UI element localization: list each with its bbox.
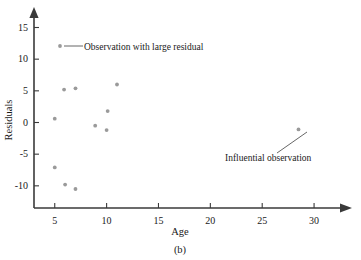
x-axis-tick-label: 10 xyxy=(102,216,112,226)
x-axis-tick-label: 25 xyxy=(257,216,267,226)
data-point xyxy=(62,88,66,92)
y-axis-tick-label: 5 xyxy=(10,86,28,96)
x-axis-tick-label: 5 xyxy=(52,216,57,226)
y-axis-arrowhead xyxy=(29,7,38,18)
y-axis-tick-label: 15 xyxy=(10,23,28,33)
x-axis-tick-label: 20 xyxy=(205,216,215,226)
data-point-group xyxy=(53,83,301,191)
x-axis-tick-label: 30 xyxy=(309,216,319,226)
annotation-large-residual-label: Observation with large residual xyxy=(84,43,203,53)
data-point xyxy=(63,183,67,187)
y-axis-tick-label: 10 xyxy=(10,54,28,64)
data-point xyxy=(106,109,110,113)
x-axis-arrowhead xyxy=(340,203,352,212)
axes xyxy=(29,7,352,213)
y-axis-tick-label: 0 xyxy=(10,118,28,128)
data-point xyxy=(105,128,109,132)
scatter-plot-figure: Observation with large residual Influent… xyxy=(0,0,361,260)
legend-sample-marker xyxy=(58,44,62,48)
x-axis-label: Age xyxy=(171,227,189,238)
data-point xyxy=(115,83,119,87)
annotation-leader-lines xyxy=(64,46,307,153)
data-point xyxy=(297,128,301,132)
data-point xyxy=(53,166,57,170)
y-axis-tick-label: -10 xyxy=(10,181,28,191)
data-point xyxy=(74,86,78,90)
figure-caption: (b) xyxy=(174,245,186,256)
legend-marker-group xyxy=(58,44,62,48)
y-axis-tick-label: -5 xyxy=(10,149,28,159)
x-axis-tick-label: 15 xyxy=(153,216,163,226)
annotation-influential-observation-label: Influential observation xyxy=(225,154,311,164)
annotation-leader-line xyxy=(277,132,307,153)
data-point xyxy=(74,187,78,191)
data-point xyxy=(53,117,57,121)
data-point xyxy=(93,124,97,128)
